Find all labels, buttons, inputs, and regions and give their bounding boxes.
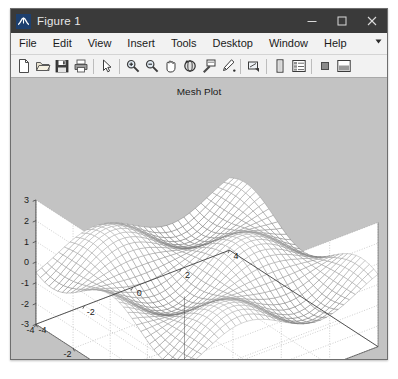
tick-label: -4: [26, 325, 34, 335]
menu-item-window[interactable]: Window: [261, 33, 316, 54]
hide-plot-tools-icon[interactable]: [315, 57, 334, 76]
new-figure-icon[interactable]: [14, 57, 33, 76]
menu-item-view[interactable]: View: [80, 33, 120, 54]
tick-label: 0: [137, 288, 142, 298]
window-title: Figure 1: [37, 15, 81, 27]
close-icon[interactable]: [357, 9, 387, 33]
menu-item-tools[interactable]: Tools: [163, 33, 205, 54]
tick-label: 1: [24, 237, 29, 247]
maximize-icon[interactable]: [327, 9, 357, 33]
title-bar: Figure 1: [11, 9, 387, 33]
chevron-down-icon[interactable]: [374, 37, 383, 49]
menu-item-edit[interactable]: Edit: [45, 33, 80, 54]
zoom-in-icon[interactable]: [123, 57, 142, 76]
tick-label: 4: [233, 251, 238, 261]
pan-hand-icon[interactable]: [161, 57, 180, 76]
tick-label: -2: [64, 349, 72, 359]
window-controls: [297, 9, 387, 33]
open-file-icon[interactable]: [33, 57, 52, 76]
tick-label: -4: [38, 325, 46, 335]
brush-data-icon[interactable]: [218, 57, 237, 76]
figure-canvas[interactable]: -3-2-10123420-2-4-4-2024 Mesh Plot: [11, 78, 387, 359]
tick-label: 3: [24, 195, 29, 205]
insert-colorbar-icon[interactable]: [270, 57, 289, 76]
toolbar-separator: [119, 59, 120, 74]
tick-label: -2: [87, 307, 95, 317]
insert-legend-icon[interactable]: [289, 57, 308, 76]
plot-title: Mesh Plot: [177, 86, 222, 97]
edit-plot-arrow-icon[interactable]: [97, 57, 116, 76]
screenshot-root: Figure 1: [0, 0, 398, 379]
minimize-icon[interactable]: [297, 9, 327, 33]
toolbar-separator: [266, 59, 267, 74]
figure-window: Figure 1: [10, 8, 388, 360]
menu-item-insert[interactable]: Insert: [119, 33, 163, 54]
toolbar-separator: [311, 59, 312, 74]
print-figure-icon[interactable]: [71, 57, 90, 76]
zoom-out-icon[interactable]: [142, 57, 161, 76]
figure-toolbar: [11, 55, 387, 78]
link-plot-icon[interactable]: [244, 57, 263, 76]
menu-item-desktop[interactable]: Desktop: [205, 33, 261, 54]
toolbar-separator: [240, 59, 241, 74]
menu-item-help[interactable]: Help: [316, 33, 355, 54]
menu-item-file[interactable]: File: [11, 33, 45, 54]
data-cursor-icon[interactable]: [199, 57, 218, 76]
menu-bar: File Edit View Insert Tools Desktop Wind…: [11, 33, 387, 55]
rotate-3d-icon[interactable]: [180, 57, 199, 76]
tick-label: 2: [185, 270, 190, 280]
tick-label: -2: [21, 299, 29, 309]
tick-label: 2: [24, 216, 29, 226]
show-plot-tools-icon[interactable]: [334, 57, 353, 76]
mesh-plot[interactable]: -3-2-10123420-2-4-4-2024 Mesh Plot: [11, 78, 387, 359]
save-figure-icon[interactable]: [52, 57, 71, 76]
tick-label: 0: [24, 257, 29, 267]
tick-label: -1: [21, 278, 29, 288]
matlab-membrane-icon: [16, 14, 31, 29]
toolbar-separator: [93, 59, 94, 74]
